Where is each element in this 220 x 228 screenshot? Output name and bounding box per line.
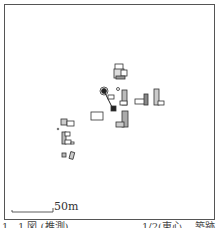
site-plan [0, 0, 220, 228]
east-building-1 [120, 90, 127, 105]
southwest-building-group [57, 119, 75, 159]
south-building [116, 111, 128, 127]
north-building-group [114, 64, 127, 79]
east-building-3 [154, 89, 164, 105]
caption-right: 1/2(東心 .. 築跡 [142, 221, 215, 228]
caption-left: 1 . 1 図 (推測) [2, 221, 68, 228]
east-building-2 [135, 94, 148, 105]
scale-bar [12, 208, 53, 212]
scale-bar-label: 50m [54, 200, 78, 213]
circular-feature [100, 87, 120, 111]
figure-caption: 1 . 1 図 (推測) 1/2(東心 .. 築跡 [2, 221, 218, 228]
open-rectangle [91, 112, 103, 120]
